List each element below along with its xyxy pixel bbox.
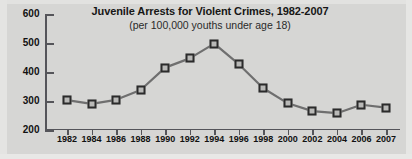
image-edge-bottom [0, 154, 412, 159]
data-point-2002 [308, 107, 317, 116]
data-point-1986 [112, 95, 121, 104]
y-tick-label-200: 200 [23, 124, 40, 135]
data-point-2004 [332, 109, 341, 118]
data-point-1994 [210, 39, 219, 48]
x-tick-label-2000: 2000 [278, 134, 298, 144]
x-tick-label-2007: 2007 [376, 134, 396, 144]
x-tick-label-1996: 1996 [229, 134, 249, 144]
x-tick-label-1988: 1988 [131, 134, 151, 144]
y-tick-label-600: 600 [23, 8, 40, 19]
x-tick-label-1982: 1982 [57, 134, 77, 144]
image-edge-right [406, 0, 412, 159]
x-tick-label-1994: 1994 [204, 134, 224, 144]
image-edge-left [0, 0, 7, 159]
chart-subtitle: (per 100,000 youths under age 18) [60, 19, 360, 31]
x-tick-label-1984: 1984 [82, 134, 102, 144]
plot-area: 200300400500600 198219841986198819901992… [45, 14, 400, 130]
data-point-2000 [283, 99, 292, 108]
x-tick-label-1990: 1990 [155, 134, 175, 144]
y-tick-label-400: 400 [23, 66, 40, 77]
data-point-2006 [357, 100, 366, 109]
y-tick-label-300: 300 [23, 95, 40, 106]
data-point-1984 [87, 99, 96, 108]
series-line [45, 14, 400, 130]
data-point-1996 [234, 60, 243, 69]
x-tick-label-1998: 1998 [253, 134, 273, 144]
x-tick-label-1992: 1992 [180, 134, 200, 144]
data-point-1988 [136, 85, 145, 94]
x-tick-label-2002: 2002 [302, 134, 322, 144]
x-tick-label-2004: 2004 [327, 134, 347, 144]
data-point-1990 [161, 63, 170, 72]
data-point-2007 [382, 103, 391, 112]
data-point-1998 [259, 84, 268, 93]
chart-title-block: Juvenile Arrests for Violent Crimes, 198… [60, 5, 360, 31]
x-tick-label-1986: 1986 [106, 134, 126, 144]
chart-title: Juvenile Arrests for Violent Crimes, 198… [60, 5, 360, 17]
image-edge-top [0, 0, 412, 4]
data-point-1992 [185, 54, 194, 63]
y-tick-label-500: 500 [23, 37, 40, 48]
x-tick-label-2006: 2006 [351, 134, 371, 144]
chart-figure: Juvenile Arrests for Violent Crimes, 198… [0, 0, 412, 159]
data-point-1982 [63, 96, 72, 105]
y-tick-200: 200 [45, 130, 54, 132]
